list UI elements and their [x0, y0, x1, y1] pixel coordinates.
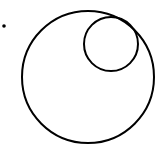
tangent-circles-diagram: [0, 0, 155, 147]
dot-marker: [2, 24, 6, 28]
inner-circle: [84, 17, 138, 71]
